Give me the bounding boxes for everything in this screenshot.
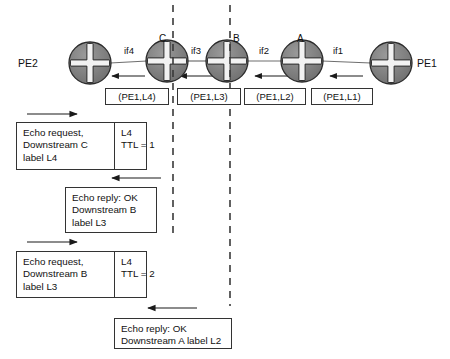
fec-label-box-3: (PE1,L2) — [244, 88, 306, 105]
interface-label-if4: if4 — [124, 46, 134, 56]
message-line: Downstream C — [23, 139, 108, 151]
message-line: label L3 — [72, 217, 150, 229]
router-icon-pe2 — [69, 42, 111, 84]
node-label-pe1: PE1 — [417, 58, 437, 69]
mpls-traceroute-diagram: PE2CBAPE1if4if3if2if1(PE1,L4)(PE1,L3)(PE… — [0, 0, 450, 359]
message-line: label L4 — [23, 152, 108, 164]
message-body-echo-reply-2: Echo reply: OKDownstream A label L2 — [115, 319, 231, 348]
message-line: Echo reply: OK — [72, 192, 150, 204]
message-line: Echo request, — [23, 256, 108, 268]
interface-label-if2: if2 — [259, 46, 269, 56]
message-box-echo-reply-2: Echo reply: OKDownstream A label L2 — [114, 318, 232, 349]
message-line: Downstream B — [23, 268, 108, 280]
message-header-echo-request-1: L4TTL = 1 — [115, 123, 161, 169]
interface-label-if1: if1 — [333, 46, 343, 56]
message-body-echo-reply-1: Echo reply: OKDownstream Blabel L3 — [66, 188, 156, 232]
interface-label-if3: if3 — [191, 46, 201, 56]
message-line: Echo reply: OK — [121, 323, 225, 335]
router-icon-b — [206, 40, 248, 82]
message-body-echo-request-2: Echo request,Downstream Blabel L3 — [17, 252, 115, 297]
router-tag-a: A — [297, 34, 304, 44]
router-tag-c: C — [159, 34, 166, 44]
fec-label-box-4: (PE1,L1) — [311, 88, 373, 105]
network-link-pe2-c — [110, 61, 147, 63]
message-box-echo-request-1: Echo request,Downstream Clabel L4L4TTL =… — [16, 122, 147, 170]
message-line: L4 — [121, 127, 155, 139]
fec-label-box-1: (PE1,L4) — [105, 88, 169, 105]
router-icon-a — [281, 40, 323, 82]
message-line: Downstream A label L2 — [121, 335, 225, 347]
diagram-canvas — [0, 0, 450, 359]
message-line: label L3 — [23, 281, 108, 293]
message-box-echo-reply-1: Echo reply: OKDownstream Blabel L3 — [65, 187, 157, 233]
fec-label-box-2: (PE1,L3) — [177, 88, 241, 105]
message-box-echo-request-2: Echo request,Downstream Blabel L3L4TTL =… — [16, 251, 147, 298]
message-header-echo-request-2: L4TTL = 2 — [115, 252, 161, 297]
node-label-pe2: PE2 — [18, 58, 38, 69]
message-line: TTL = 2 — [121, 268, 155, 280]
message-line: Echo request, — [23, 127, 108, 139]
router-tag-b: B — [233, 34, 240, 44]
network-link-a-pe1 — [322, 61, 371, 63]
message-body-echo-request-1: Echo request,Downstream Clabel L4 — [17, 123, 115, 169]
router-icon-pe1 — [370, 42, 412, 84]
message-line: Downstream B — [72, 204, 150, 216]
message-line: TTL = 1 — [121, 139, 155, 151]
router-icon-c — [146, 40, 188, 82]
message-line: L4 — [121, 256, 155, 268]
